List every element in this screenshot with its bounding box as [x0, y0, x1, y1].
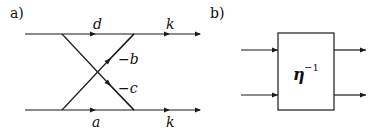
arrow-bottom-a	[90, 108, 96, 113]
arrow-top-end	[195, 32, 201, 37]
arrow-top-k	[164, 32, 170, 37]
panel-b-label: b)	[210, 5, 224, 21]
panel-a-diagram	[25, 32, 201, 113]
label-d: d	[93, 16, 102, 32]
input-arrow-top	[272, 48, 278, 53]
arrow-bottom-k	[164, 108, 170, 113]
diag-up-thin	[62, 61, 108, 110]
label-a: a	[92, 114, 100, 130]
label-minus-c: −c	[118, 80, 138, 96]
diag-down-thin	[62, 34, 108, 83]
arrow-top-d	[90, 32, 96, 37]
diagram-canvas: a) d k a k −b −c b) η −1	[0, 0, 382, 133]
eta-superscript: −1	[304, 62, 319, 73]
label-k-top: k	[166, 16, 174, 32]
eta-symbol: η	[293, 65, 305, 84]
arrow-bottom-end	[195, 108, 201, 113]
output-arrow-top	[360, 48, 366, 53]
input-arrow-bottom	[272, 93, 278, 98]
output-arrow-bottom	[360, 93, 366, 98]
label-k-bottom: k	[166, 114, 174, 130]
label-minus-b: −b	[118, 51, 139, 67]
panel-a-label: a)	[10, 5, 24, 21]
